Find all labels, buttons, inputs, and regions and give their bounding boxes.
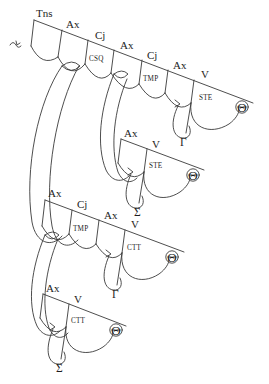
diagram-svg: Tns Ax Cj CSQ Ax Cj TMP Ax V STE Θ Γ A: [0, 0, 269, 384]
divider-ax3-v: [191, 80, 194, 103]
label-ste-1: STE: [199, 94, 213, 102]
label-b3-ax2: Ax: [104, 209, 118, 221]
label-b4-ctt: CTT: [71, 317, 86, 325]
label-b2-ax: Ax: [124, 127, 138, 139]
label-b4-ax: Ax: [46, 282, 60, 294]
arc-b2-v-to-theta: [144, 172, 190, 198]
theta-glyph-b3: Θ: [167, 250, 176, 265]
arc-b3-v-to-theta: [122, 253, 169, 279]
branch-3-divider-ax2-v: [122, 230, 125, 253]
label-b2-v: V: [152, 138, 160, 150]
branch-3-divider-ax-cj: [69, 210, 72, 234]
theta-glyph-b1: Θ: [237, 100, 246, 115]
arc-cj-to-ax: [85, 64, 111, 78]
label-b2-sigma: Σ: [134, 206, 141, 218]
arc-b4-v-to-theta: [66, 327, 113, 353]
connector-b1b2-lens: [114, 71, 128, 78]
diagram-canvas: Tns Ax Cj CSQ Ax Cj TMP Ax V STE Θ Γ A: [0, 0, 269, 384]
divider-tns-ax: [58, 30, 62, 57]
arc-ax-to-tns: [58, 57, 85, 71]
branch-3-divider-cj-ax2: [96, 220, 99, 244]
arc-cj2-to-ax2: [139, 84, 165, 98]
branch-2-divider-ax-v: [144, 149, 147, 172]
label-cj-1: Cj: [95, 29, 105, 41]
branch-4-divider-ax-v: [66, 304, 69, 327]
label-b3-cj: Cj: [77, 198, 87, 210]
long-arc-tns-scope: [30, 66, 62, 243]
branch-1-left-tick: [31, 20, 34, 46]
arc-v-to-theta-b1: [191, 103, 239, 129]
label-gamma-1: Γ: [180, 136, 187, 148]
gamma-arrow-tip-b1: [175, 100, 180, 107]
label-b3-ctt: CTT: [127, 244, 142, 252]
divider-cj-ax2: [111, 50, 114, 73]
label-b3-v: V: [131, 218, 139, 230]
label-b3-ax1: Ax: [48, 187, 62, 199]
sigma-arrow-tip-b2: [128, 168, 133, 175]
divider-cj2-ax3: [165, 70, 168, 93]
label-v-1: V: [201, 68, 209, 80]
long-arc-secondary: [50, 66, 79, 245]
arc-tns-to-left: [31, 46, 58, 61]
label-b3-gamma: Γ: [112, 288, 119, 300]
label-csq: CSQ: [89, 55, 104, 63]
label-b4-v: V: [74, 293, 82, 305]
branch-3-left-tick: [42, 200, 45, 226]
label-b3-tmp: TMP: [73, 225, 88, 233]
divider-ax2-cj2: [139, 60, 142, 84]
branch-2-left-tick: [118, 139, 121, 163]
theta-glyph-b2: Θ: [188, 168, 197, 183]
branch-3-group: Ax Cj TMP Ax V CTT Θ Γ: [31, 187, 184, 337]
label-tmp-1: TMP: [143, 75, 158, 83]
divider-ax-cj: [85, 40, 88, 64]
label-tns: Tns: [36, 7, 53, 19]
label-ax-1: Ax: [66, 18, 80, 30]
label-ax-2: Ax: [120, 39, 134, 51]
sigma-arrow-tip-b4: [50, 323, 55, 330]
arc-b3-cj-ax: [69, 234, 96, 249]
branch-4-left-tick: [40, 294, 43, 318]
branch-3-baseline: [45, 200, 184, 252]
label-ax-3: Ax: [173, 59, 187, 71]
label-b4-sigma: Σ: [56, 362, 63, 374]
label-cj-2: Cj: [147, 49, 157, 61]
label-b2-ste: STE: [149, 162, 163, 170]
theta-glyph-b4: Θ: [111, 323, 120, 338]
branch-2-baseline: [121, 139, 204, 170]
left-squiggle-arrow-tip-icon: [16, 41, 20, 45]
